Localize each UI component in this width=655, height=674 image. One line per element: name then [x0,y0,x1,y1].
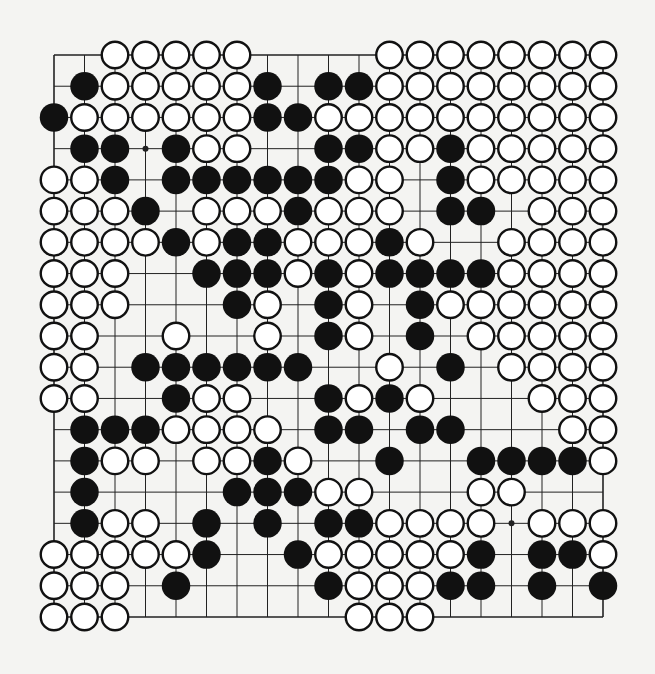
white-stone [224,416,251,443]
white-stone [559,260,586,287]
white-stone [163,42,190,69]
white-stone [498,73,525,100]
white-stone [590,385,617,412]
white-stone [498,292,525,319]
white-stone [407,73,434,100]
white-stone [346,323,373,350]
white-stone [590,323,617,350]
white-stone [346,479,373,506]
white-stone [71,229,98,256]
white-stone [254,198,281,225]
go-board[interactable] [0,0,655,674]
black-stone [375,384,404,413]
black-stone [253,509,282,538]
white-stone [498,260,525,287]
black-stone [70,72,99,101]
white-stone [71,198,98,225]
white-stone [71,604,98,631]
white-stone [71,573,98,600]
white-stone [102,260,129,287]
black-stone [375,228,404,256]
white-stone [559,167,586,194]
white-stone [41,354,68,381]
white-stone [590,541,617,568]
white-stone [376,73,403,100]
white-stone [193,229,220,256]
black-stone [314,166,343,195]
black-stone [314,509,343,538]
white-stone [529,510,556,537]
white-stone [498,135,525,162]
white-stone [193,104,220,131]
black-stone [162,572,191,601]
white-stone [559,385,586,412]
white-stone [529,260,556,287]
black-stone [406,322,435,351]
black-stone [192,259,221,288]
black-stone [284,103,313,132]
white-stone [41,229,68,256]
white-stone [132,229,159,256]
black-stone [70,509,99,538]
white-stone [41,198,68,225]
white-stone [102,42,129,69]
black-stone [284,166,313,195]
white-stone [529,198,556,225]
black-stone [345,72,374,101]
white-stone [41,292,68,319]
white-stone [529,229,556,256]
white-stone [285,229,312,256]
white-stone [163,541,190,568]
black-stone [375,259,404,288]
white-stone [559,104,586,131]
white-stone [407,541,434,568]
white-stone [346,541,373,568]
white-stone [224,104,251,131]
black-stone [467,447,496,476]
white-stone [102,573,129,600]
black-stone [528,447,557,476]
white-stone [376,198,403,225]
black-stone [558,540,587,569]
white-stone [315,229,342,256]
black-stone [314,384,343,413]
black-stone [253,228,282,256]
white-stone [590,73,617,100]
black-stone [131,197,160,226]
white-stone [193,198,220,225]
black-stone [436,166,465,195]
black-stone [314,572,343,601]
white-stone [254,292,281,319]
white-stone [346,198,373,225]
white-stone [407,604,434,631]
black-stone [162,228,191,256]
black-stone [223,291,252,320]
white-stone [132,104,159,131]
white-stone [376,135,403,162]
white-stone [468,323,495,350]
white-stone [529,135,556,162]
white-stone [376,104,403,131]
black-stone [131,353,160,382]
black-stone [436,353,465,382]
white-stone [437,510,464,537]
black-stone [467,572,496,601]
black-stone [162,134,191,163]
white-stone [529,104,556,131]
white-stone [224,73,251,100]
white-stone [407,510,434,537]
black-stone [101,415,130,444]
white-stone [529,323,556,350]
white-stone [71,292,98,319]
white-stone [132,73,159,100]
white-stone [224,448,251,475]
white-stone [559,42,586,69]
white-stone [224,385,251,412]
white-stone [407,385,434,412]
white-stone [193,73,220,100]
black-stone [192,353,221,382]
white-stone [163,323,190,350]
white-stone [163,104,190,131]
black-stone [406,291,435,320]
white-stone [71,167,98,194]
